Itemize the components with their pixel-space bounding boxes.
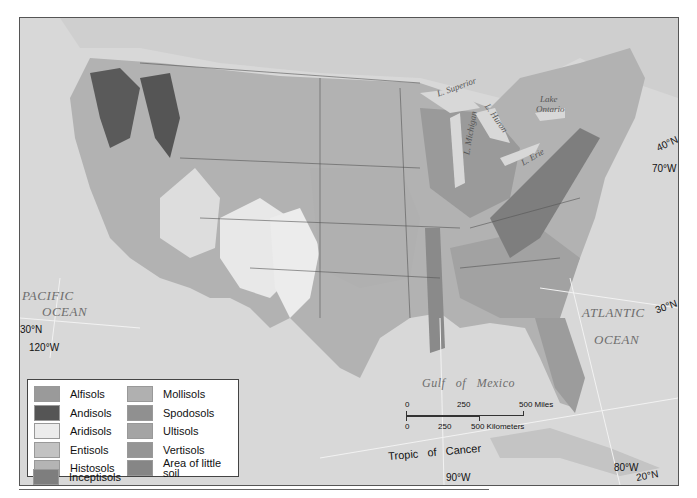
scale-km-250: 250 [438, 422, 451, 431]
legend-swatch [127, 460, 153, 476]
lon-70w-label: 70°W [652, 163, 677, 174]
legend-item-ultisols: Ultisols [127, 422, 223, 441]
legend-swatch [127, 405, 153, 421]
caption-divider [19, 489, 489, 490]
legend-item-mollisols: Mollisols [127, 385, 223, 404]
legend-label: Alfisols [70, 389, 105, 399]
scale-km-500: 500 Kilometers [471, 422, 524, 431]
legend-swatch [127, 423, 153, 439]
legend-item-vertisols: Vertisols [127, 441, 223, 460]
lon-90w-label: 90°W [446, 472, 471, 483]
legend-swatch [34, 405, 60, 421]
lon-120w-label: 120°W [29, 342, 59, 353]
lat-30n-west-label: 30°N [20, 324, 42, 335]
lake-ontario-label-line1: Lake [540, 94, 558, 104]
legend-item-little-soil: Area of little soil [127, 459, 223, 478]
legend-label: Spodosols [163, 408, 214, 418]
scale-miles-250: 250 [457, 400, 470, 409]
scale-miles-0: 0 [405, 400, 409, 409]
scale-km-0: 0 [405, 422, 409, 431]
legend-label: Vertisols [163, 445, 205, 455]
legend-item-inceptisols: Inceptisols [33, 469, 121, 485]
legend-label: Mollisols [163, 389, 205, 399]
legend-label: Andisols [70, 408, 112, 418]
legend-label: Aridisols [70, 426, 112, 436]
legend-label: Area of little soil [163, 458, 223, 478]
pacific-ocean-label-line1: PACIFIC [22, 288, 74, 304]
legend-swatch [127, 386, 153, 402]
gulf-of-mexico-label: Gulf of Mexico [422, 376, 515, 391]
atlantic-ocean-label-line2: OCEAN [594, 332, 639, 348]
legend-item-andisols: Andisols [34, 404, 115, 423]
pacific-ocean-label-line2: OCEAN [42, 304, 87, 320]
legend-item-alfisols: Alfisols [34, 385, 115, 404]
legend-swatch [34, 386, 60, 402]
legend-swatch [34, 442, 60, 458]
legend-swatch [127, 442, 153, 458]
legend-swatch [33, 469, 59, 485]
lake-ontario-label-line2: Ontario [536, 104, 565, 114]
legend-item-aridisols: Aridisols [34, 422, 115, 441]
legend-swatch [34, 423, 60, 439]
legend-item-spodosols: Spodosols [127, 404, 223, 423]
scale-bar: 0 250 500 Miles 0 250 500 Kilometers [405, 400, 605, 440]
scale-miles-500: 500 Miles [519, 400, 553, 409]
legend-label: Entisols [70, 445, 109, 455]
legend-column-right: Mollisols Spodosols Ultisols Vertisols A… [127, 385, 223, 478]
legend-item-entisols: Entisols [34, 441, 115, 460]
atlantic-ocean-label-line1: ATLANTIC [582, 305, 645, 321]
legend-label: Ultisols [163, 426, 198, 436]
scale-line-km [406, 416, 480, 421]
legend-column-left: Alfisols Andisols Aridisols Entisols His… [34, 385, 115, 478]
soil-map: PACIFIC OCEAN ATLANTIC OCEAN Gulf of Mex… [19, 17, 679, 486]
legend-label: Inceptisols [69, 472, 121, 482]
map-legend: Alfisols Andisols Aridisols Entisols His… [27, 379, 239, 477]
